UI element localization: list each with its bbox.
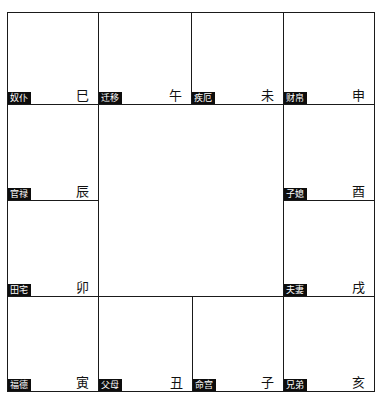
palace-label: 命宫 (193, 379, 216, 391)
palace-cell-you[interactable]: 子媳 酉 (283, 104, 375, 201)
palace-chart: 奴仆 巳 迁移 午 疾厄 未 财帛 申 官禄 辰 子媳 酉 田宅 卯 夫妻 戌 … (7, 12, 372, 391)
palace-cell-chou[interactable]: 父母 丑 (98, 296, 193, 392)
earthly-branch: 丑 (170, 376, 183, 390)
palace-label: 奴仆 (8, 92, 31, 104)
palace-label: 兄弟 (284, 379, 307, 391)
palace-cell-zi[interactable]: 命宫 子 (192, 296, 284, 392)
palace-label: 官禄 (8, 188, 31, 200)
earthly-branch: 辰 (76, 185, 89, 199)
palace-label: 福德 (8, 379, 31, 391)
palace-label: 财帛 (284, 92, 307, 104)
earthly-branch: 寅 (76, 376, 89, 390)
palace-cell-wei[interactable]: 疾厄 未 (191, 12, 284, 105)
palace-label: 夫妻 (284, 284, 307, 296)
palace-cell-xu[interactable]: 夫妻 戌 (283, 200, 375, 297)
chart-center (98, 104, 284, 297)
palace-label: 迁移 (99, 92, 122, 104)
earthly-branch: 申 (352, 89, 365, 103)
earthly-branch: 戌 (352, 281, 365, 295)
palace-label: 子媳 (284, 188, 307, 200)
earthly-branch: 子 (261, 376, 274, 390)
earthly-branch: 未 (261, 89, 274, 103)
palace-cell-hai[interactable]: 兄弟 亥 (283, 296, 375, 392)
palace-label: 田宅 (8, 284, 31, 296)
palace-cell-shen[interactable]: 财帛 申 (283, 12, 375, 105)
palace-label: 父母 (99, 379, 122, 391)
earthly-branch: 酉 (352, 185, 365, 199)
palace-cell-chen[interactable]: 官禄 辰 (7, 104, 99, 201)
earthly-branch: 巳 (76, 89, 89, 103)
palace-cell-wu[interactable]: 迁移 午 (98, 12, 192, 105)
palace-cell-yin[interactable]: 福德 寅 (7, 296, 99, 392)
earthly-branch: 卯 (76, 281, 89, 295)
earthly-branch: 午 (169, 89, 182, 103)
palace-cell-mao[interactable]: 田宅 卯 (7, 200, 99, 297)
palace-cell-si[interactable]: 奴仆 巳 (7, 12, 99, 105)
earthly-branch: 亥 (352, 376, 365, 390)
palace-label: 疾厄 (192, 92, 215, 104)
